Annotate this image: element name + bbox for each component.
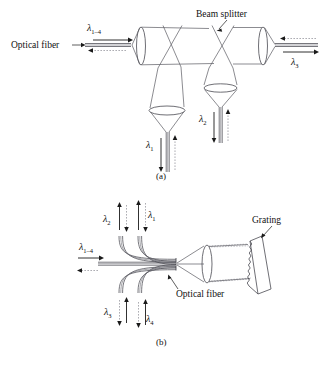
lambda-2-up-arrow [226,109,231,141]
grating-label: Grating [252,215,281,225]
lambda-1-fiber [166,132,169,172]
beam-cone-right-a [233,28,275,65]
lambda-3-label-a: λ3 [290,56,299,69]
panel-b-lambda-2-down-arrow [124,205,129,232]
svg-text:λ4: λ4 [145,313,154,326]
figure-container: Optical fiber λ1–4 [0,0,326,365]
optical-fiber-pointer-arrow-a [72,43,86,47]
right-output-fiber [275,44,318,47]
svg-text:λ1: λ1 [147,209,156,222]
beam-splitter-label: Beam splitter [196,9,248,19]
panel-a-diagram: Optical fiber λ1–4 [0,0,326,185]
svg-text:λ2: λ2 [198,113,207,126]
lens-right-a [259,27,268,65]
panel-a-optical-fiber-label: Optical fiber [11,40,60,50]
optical-fiber-pointer-arrow-b [168,274,178,289]
lambda-1-4-return-arrow [88,48,126,53]
beam-cone-b [177,246,204,282]
lambda-1-4-in-arrow [93,38,133,43]
lambda-3-out-arrow [283,50,319,55]
rays-to-grating [209,244,251,282]
lambda-2-label-a: λ2 [198,113,207,126]
branch-lambda-1-a [149,67,185,132]
panel-b-lambda-3-label: λ3 [103,306,112,319]
panel-b-lambda-1-4-return-arrow [77,268,98,273]
svg-text:λ1–4: λ1–4 [78,241,94,254]
panel-b-optical-fiber-label: Optical fiber [176,289,225,299]
panel-b-lambda-3-up-arrow [124,297,129,323]
panel-b-lambda-1-4-label: λ1–4 [78,241,94,254]
panel-b-lambda-4-down-arrow [136,302,141,328]
panel-b-lambda-2-label: λ2 [102,213,111,226]
panel-b-diagram: λ1–4 λ2 [0,185,326,365]
svg-text:λ3: λ3 [103,306,112,319]
lambda-1-down-arrow [159,138,164,172]
lambda-2-fiber [219,107,222,143]
svg-text:λ1–4: λ1–4 [86,22,102,35]
panel-a-caption: (a) [156,171,166,181]
panel-b-lambda-1-up-arrow [136,200,141,230]
panel-b-lambda-1-label: λ1 [147,209,156,222]
panel-b-lambda-4-label: λ4 [145,313,154,326]
beam-splitter-1-a [158,26,182,69]
lambda-1-label-a: λ1 [145,139,154,152]
panel-b-lambda-1-4-in-arrow [78,256,104,261]
panel-b-lambda-3-down-arrow [117,300,122,326]
grating [247,236,271,294]
lambda-1-4-label-a: λ1–4 [86,22,102,35]
panel-b-caption: (b) [156,337,167,347]
beam-splitter-pointer-arrow [217,20,227,32]
lambda-2-down-arrow [212,112,217,143]
grating-pointer-arrow [261,226,272,238]
svg-text:λ2: λ2 [102,213,111,226]
lambda-3-in-arrow [280,36,316,41]
left-input-fiber [85,44,131,47]
lambda-1-up-arrow [173,135,178,170]
svg-text:λ1: λ1 [145,139,154,152]
branch-lambda-2-a [204,68,237,107]
beam-splitter-2-a [209,26,234,69]
svg-text:λ3: λ3 [290,56,299,69]
panel-b-lambda-2-up-arrow [117,202,122,230]
fiber-bundle [119,236,176,293]
